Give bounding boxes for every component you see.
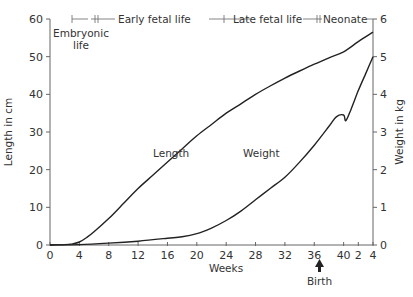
weight-curve-label: Weight (243, 147, 280, 159)
x-axis-title: Weeks (209, 262, 243, 274)
left-y-tick-label: 20 (29, 164, 43, 177)
right-y-tick-label: 5 (380, 51, 387, 64)
left-y-tick-label: 0 (36, 239, 43, 252)
x-tick-label: 0 (47, 249, 54, 262)
weight-curve (50, 57, 373, 245)
right-y-tick-label: 3 (380, 126, 387, 139)
right-y-tick-label: 2 (380, 164, 387, 177)
birth-marker: Birth (307, 259, 332, 287)
period-label-embryonic-2: life (73, 39, 89, 51)
left-y-ticks: 0102030405060 (29, 13, 50, 252)
x-tick-label: 2 (355, 249, 362, 262)
x-tick-label: 28 (249, 249, 263, 262)
period-label-embryonic-1: Embryonic (53, 27, 109, 39)
right-y-tick-label: 0 (380, 239, 387, 252)
x-tick-label: 40 (337, 249, 351, 262)
right-y-tick-label: 1 (380, 201, 387, 214)
x-tick-label: 8 (105, 249, 112, 262)
left-y-tick-label: 60 (29, 13, 43, 26)
x-tick-label: 16 (160, 249, 174, 262)
left-y-axis-title: Length in cm (2, 98, 14, 166)
x-tick-label: 4 (76, 249, 83, 262)
growth-chart: 048121620242832364024 0102030405060 0123… (0, 0, 413, 297)
right-y-tick-label: 4 (380, 88, 387, 101)
x-tick-label: 24 (219, 249, 233, 262)
period-annotation-bar: Early fetal life Late fetal life Neonate… (53, 13, 373, 51)
right-y-axis-title: Weight in kg (393, 99, 405, 165)
x-tick-label: 32 (278, 249, 292, 262)
period-label-early-fetal: Early fetal life (118, 13, 191, 25)
right-y-ticks: 0123456 (373, 13, 387, 252)
length-curve-label: Length (153, 147, 189, 159)
length-curve (50, 32, 373, 245)
left-y-tick-label: 30 (29, 126, 43, 139)
left-y-tick-label: 10 (29, 201, 43, 214)
x-tick-label: 12 (131, 249, 145, 262)
period-label-neonate: Neonate (323, 13, 367, 25)
right-y-tick-label: 6 (380, 13, 387, 26)
period-label-late-fetal: Late fetal life (233, 13, 302, 25)
left-y-tick-label: 50 (29, 51, 43, 64)
left-y-tick-label: 40 (29, 88, 43, 101)
x-tick-label: 4 (370, 249, 377, 262)
birth-label: Birth (307, 275, 332, 287)
x-tick-label: 20 (190, 249, 204, 262)
